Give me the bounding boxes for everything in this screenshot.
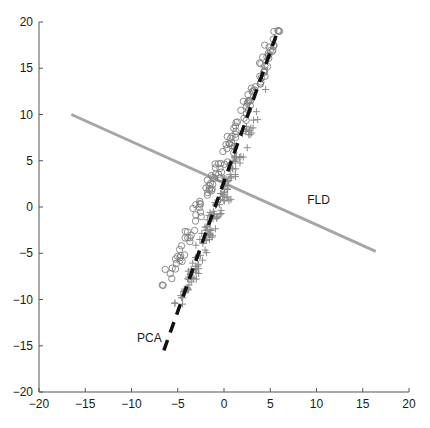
cross-marker	[253, 108, 260, 115]
fld-label: FLD	[307, 193, 330, 207]
y-tick-label: 0	[26, 200, 33, 214]
cross-marker	[218, 207, 225, 214]
x-tick-label: 15	[356, 397, 370, 411]
cross-marker	[262, 86, 269, 93]
y-ticks: −20−15−10−505101520	[13, 15, 43, 399]
y-tick-label: −15	[13, 339, 34, 353]
x-tick-label: 0	[221, 397, 228, 411]
x-tick-label: −10	[121, 397, 142, 411]
x-tick-label: 5	[267, 397, 274, 411]
cross-marker	[247, 131, 254, 138]
cross-marker	[250, 117, 257, 124]
x-ticks: −20−15−10−505101520	[29, 388, 416, 411]
circle-marker	[238, 107, 244, 113]
cross-marker	[192, 242, 199, 249]
x-tick-label: −20	[29, 397, 50, 411]
cross-marker	[244, 144, 251, 151]
pca-label: PCA	[137, 331, 162, 345]
y-tick-label: −10	[13, 293, 34, 307]
scatter-chart: −20−15−10−505101520 −20−15−10−505101520 …	[0, 0, 430, 428]
cross-marker	[172, 299, 179, 306]
y-tick-label: 10	[20, 108, 34, 122]
circle-marker	[192, 218, 198, 224]
x-tick-label: −5	[171, 397, 185, 411]
y-tick-label: 5	[26, 154, 33, 168]
x-tick-label: 10	[310, 397, 324, 411]
y-tick-label: 15	[20, 61, 34, 75]
y-tick-label: −5	[19, 246, 33, 260]
y-tick-label: 20	[20, 15, 34, 29]
circle-marker	[176, 246, 182, 252]
class-1-circle-markers	[159, 27, 283, 288]
cross-marker	[212, 225, 219, 232]
circle-marker	[210, 181, 216, 187]
x-tick-label: −15	[75, 397, 96, 411]
x-tick-label: 20	[402, 397, 416, 411]
circle-marker	[178, 243, 184, 249]
